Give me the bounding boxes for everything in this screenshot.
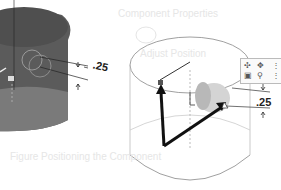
move-icon[interactable]: ✥ bbox=[257, 62, 264, 70]
right-dimension-label: .25 bbox=[256, 96, 271, 108]
pin-icon[interactable]: ⚲ bbox=[257, 72, 263, 80]
ghost-text-middle: Adjust Position bbox=[140, 48, 206, 59]
left-cylinder bbox=[0, 0, 88, 131]
info-icon[interactable]: ⋮ bbox=[272, 62, 280, 70]
ghost-text-top: Component Properties bbox=[118, 8, 218, 19]
more-icon[interactable]: ⋮ bbox=[272, 72, 280, 80]
cube-icon[interactable]: ▣ bbox=[244, 72, 252, 80]
context-toolbar: ✣ ✥ ⋮ ▣ ⚲ ⋮ bbox=[240, 58, 281, 84]
ghost-text-bottom: Figure Positioning the Component bbox=[10, 151, 161, 162]
rotate-icon[interactable]: ✣ bbox=[244, 62, 251, 70]
